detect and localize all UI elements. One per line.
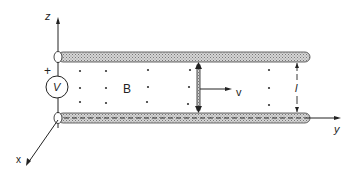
x-axis bbox=[26, 120, 58, 166]
source-polarity-label: + bbox=[44, 64, 51, 78]
velocity-label: v bbox=[236, 86, 242, 98]
z-axis-label: z bbox=[44, 10, 51, 22]
field-label: B bbox=[123, 82, 131, 96]
y-axis bbox=[305, 116, 341, 120]
y-axis-label: y bbox=[333, 123, 341, 135]
sliding-bar bbox=[195, 62, 202, 113]
rail-diagram: z x y + V B v l bbox=[0, 0, 352, 173]
x-axis-label: x bbox=[16, 154, 21, 165]
top-rail bbox=[54, 52, 310, 63]
bottom-rail bbox=[54, 113, 310, 124]
velocity-arrow bbox=[200, 87, 232, 91]
